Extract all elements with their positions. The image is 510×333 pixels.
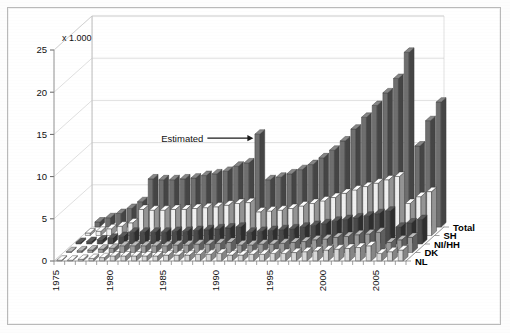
x-axis-tick-label: 1975: [50, 270, 61, 291]
y-axis-tick-label: 0: [42, 255, 47, 266]
bar-front-face: [87, 241, 92, 244]
bar-front-face: [130, 246, 135, 253]
screenshot-root: 2520151050x 1.00019751980198519901995200…: [0, 0, 510, 333]
series-axis-label: NL: [415, 256, 428, 267]
x-axis-tick-label: 2000: [317, 270, 328, 291]
bar-front-face: [388, 252, 393, 261]
bar-front-face: [129, 232, 134, 244]
bar-front-face: [196, 254, 201, 261]
bar-3d: [366, 241, 376, 261]
bar-front-face: [292, 253, 297, 261]
y-axis-tick-label: 15: [36, 129, 47, 140]
bar-front-face: [237, 245, 242, 253]
bar-front-face: [141, 246, 146, 253]
bar-front-face: [184, 245, 189, 253]
bar-front-face: [121, 256, 126, 261]
bar-front-face: [174, 255, 179, 261]
bar-front-face: [110, 256, 115, 261]
bar-front-face: [334, 249, 339, 261]
x-axis-tick-label: 2005: [370, 270, 381, 291]
bar-front-face: [436, 102, 441, 227]
bar-front-face: [260, 254, 265, 261]
bar-front-face: [194, 244, 199, 252]
y-axis-tick-label: 10: [36, 171, 47, 182]
y-axis-tick-label: 25: [36, 44, 47, 55]
y-axis-tick-label: 5: [42, 213, 47, 224]
bar-front-face: [238, 255, 243, 261]
bar-front-face: [96, 231, 101, 235]
bar-front-face: [132, 256, 137, 261]
bar-front-face: [109, 248, 114, 252]
x-axis-tick-label: 1985: [157, 270, 168, 291]
bar-front-face: [356, 247, 361, 261]
bar-front-face: [97, 240, 102, 244]
bar-front-face: [258, 244, 263, 252]
bar-front-face: [85, 233, 90, 236]
bar-front-face: [100, 258, 105, 261]
bar-front-face: [302, 252, 307, 261]
bar-front-face: [205, 244, 210, 252]
y-axis-tick-label: 20: [36, 87, 47, 98]
bar-front-face: [270, 253, 275, 261]
bar-side-face: [441, 98, 446, 227]
bar-front-face: [398, 250, 403, 261]
annotation-label: Estimated: [161, 133, 203, 144]
bar-front-face: [313, 251, 318, 261]
bar-front-face: [151, 232, 156, 244]
bar-front-face: [366, 246, 371, 261]
bar-front-face: [236, 227, 241, 244]
x-axis-tick-label: 1990: [210, 270, 221, 291]
x-axis-tick-label: 1995: [264, 270, 275, 291]
bar-3d: [436, 98, 446, 227]
bar-front-face: [281, 253, 286, 261]
bar-front-face: [324, 250, 329, 261]
bar-front-face: [120, 246, 125, 253]
bar-front-face: [377, 253, 382, 261]
chart-plot-area: 2520151050x 1.00019751980198519901995200…: [8, 8, 500, 324]
bar-front-face: [142, 256, 147, 261]
bar-front-face: [98, 249, 103, 252]
bar-front-face: [88, 250, 93, 253]
bar-front-face: [95, 222, 100, 227]
bar-front-face: [107, 229, 112, 236]
bar-front-face: [376, 232, 381, 252]
bar-side-face: [432, 187, 437, 235]
bar-front-face: [106, 218, 111, 227]
bar-front-face: [249, 254, 254, 261]
chart-frame: 2520151050x 1.00019751980198519901995200…: [7, 7, 501, 325]
bar-front-face: [185, 255, 190, 261]
y-axis-unit-label-visible: x 1.000: [62, 33, 92, 43]
bar-front-face: [164, 255, 169, 261]
bar-3d: [427, 187, 437, 235]
chart-svg: 2520151050x 1.00019751980198519901995200…: [8, 8, 500, 324]
bar-front-face: [226, 242, 231, 252]
bar-front-face: [427, 192, 432, 236]
bar-front-face: [408, 237, 413, 252]
bar-3d: [417, 215, 427, 244]
bar-front-face: [152, 246, 157, 253]
x-axis-tick-label: 1980: [104, 270, 115, 291]
bar-front-face: [206, 254, 211, 261]
bar-front-face: [173, 245, 178, 253]
bar-front-face: [161, 232, 166, 244]
bar-front-face: [162, 246, 167, 253]
bar-front-face: [385, 211, 390, 244]
bar-front-face: [417, 220, 422, 244]
bar-front-face: [228, 255, 233, 261]
bar-front-face: [217, 253, 222, 261]
bar-front-face: [345, 248, 350, 261]
bar-front-face: [108, 238, 113, 244]
bar-front-face: [153, 256, 158, 261]
bar-side-face: [422, 215, 427, 244]
bar-front-face: [76, 242, 81, 244]
bar-3d: [408, 233, 418, 253]
bar-front-face: [77, 251, 82, 253]
left-wall-plane: [54, 16, 92, 261]
bar-front-face: [140, 232, 145, 244]
